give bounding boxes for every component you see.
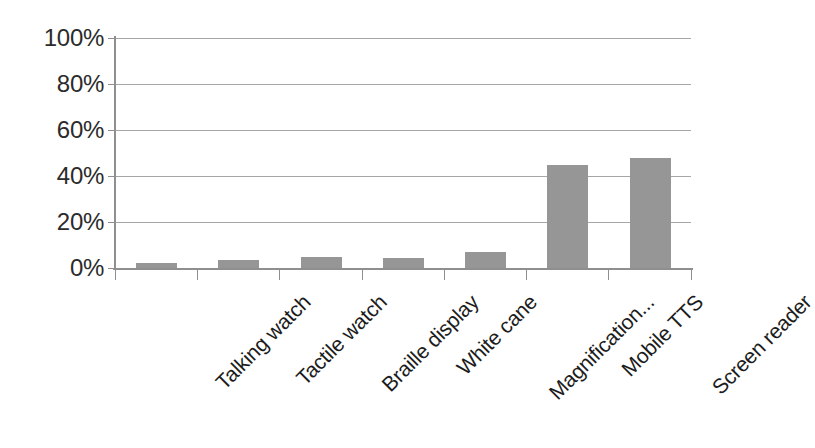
y-axis-tick-label: 80% — [0, 72, 104, 96]
bar-mobile-tts — [547, 165, 588, 269]
bar-series — [115, 38, 691, 268]
y-axis-tick-label: 100% — [0, 26, 104, 50]
y-axis-tick-label: 60% — [0, 118, 104, 142]
bar-screen-reader — [630, 158, 671, 268]
x-axis-tick-label-braille-display: Braille display — [377, 290, 483, 396]
x-axis-tick-label-screen-reader: Screen reader — [707, 290, 815, 399]
x-axis-tick-labels: Talking watch Tactile watch Braille disp… — [115, 268, 691, 448]
bar-magnification — [465, 252, 506, 268]
plot-area — [115, 38, 691, 268]
y-axis-tick-labels: 100% 80% 60% 40% 20% 0% — [0, 0, 104, 448]
x-axis-tick — [691, 269, 692, 280]
bar-braille-display — [301, 257, 342, 269]
bar-tactile-watch — [218, 260, 259, 268]
y-axis-tick-label: 0% — [0, 256, 104, 280]
y-axis-tick-label: 40% — [0, 164, 104, 188]
y-axis-tick-label: 20% — [0, 210, 104, 234]
bar-white-cane — [383, 258, 424, 268]
